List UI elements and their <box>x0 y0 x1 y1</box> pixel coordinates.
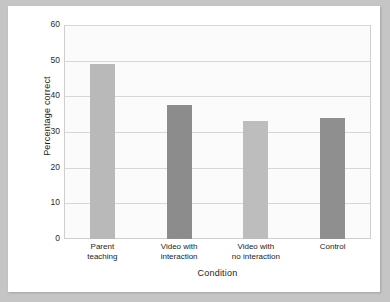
x-tick-label-line: Video with <box>218 242 295 252</box>
y-tick-label: 40 <box>40 91 60 100</box>
x-tick-label: Video withno interaction <box>218 242 295 262</box>
x-axis-title: Condition <box>64 268 371 278</box>
bar-chart: Percentage correct 0102030405060 Parentt… <box>8 6 380 292</box>
x-tick-label-line: Parent <box>64 242 141 252</box>
y-tick-label: 60 <box>40 20 60 29</box>
bar <box>243 121 268 239</box>
x-tick-label: Control <box>294 242 371 252</box>
y-tick-label: 50 <box>40 56 60 65</box>
x-tick-label-line: Video with <box>141 242 218 252</box>
y-tick-label: 20 <box>40 163 60 172</box>
x-axis-ticks: ParentteachingVideo withinteractionVideo… <box>64 242 371 268</box>
x-tick-label-line: no interaction <box>218 252 295 262</box>
figure-card: Percentage correct 0102030405060 Parentt… <box>8 6 380 292</box>
y-tick-label: 10 <box>40 198 60 207</box>
x-tick-label-line: interaction <box>141 252 218 262</box>
y-axis-ticks: 0102030405060 <box>38 25 60 239</box>
x-tick-label-line: Control <box>294 242 371 252</box>
x-tick-label: Parentteaching <box>64 242 141 262</box>
x-tick-label: Video withinteraction <box>141 242 218 262</box>
page-background: Percentage correct 0102030405060 Parentt… <box>0 0 390 302</box>
y-tick-label: 30 <box>40 127 60 136</box>
bar <box>90 64 115 239</box>
bar <box>320 118 345 239</box>
bar <box>167 105 192 239</box>
y-tick-label: 0 <box>40 234 60 243</box>
x-tick-label-line: teaching <box>64 252 141 262</box>
bar-series <box>64 25 371 239</box>
